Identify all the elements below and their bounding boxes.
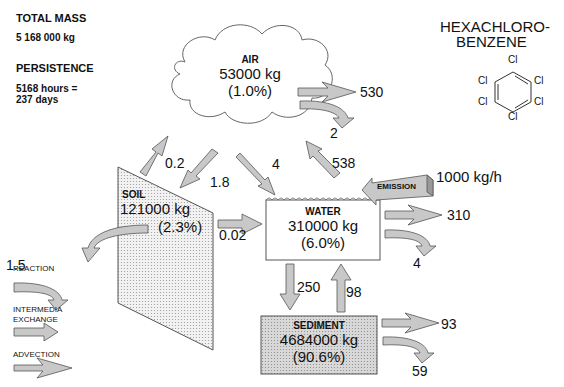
- cl-lower-left: Cl: [478, 96, 487, 107]
- soil-to-air-arrow: [140, 136, 168, 176]
- persistence-line1: 5168 hours =: [16, 83, 77, 94]
- persistence-line2: 237 days: [16, 94, 58, 105]
- sediment-mass: 4684000 kg: [261, 331, 377, 348]
- sediment-label: SEDIMENT: [261, 320, 377, 331]
- flow-air-to-water: 4: [272, 156, 280, 172]
- flow-sediment-advection: 93: [441, 316, 457, 332]
- emission-rate: 1000 kg/h: [436, 168, 502, 185]
- water-percent: (6.0%): [266, 234, 380, 251]
- flow-water-to-sediment: 250: [297, 279, 320, 295]
- legend-advection-label: ADVECTION: [13, 350, 60, 359]
- persistence-label: PERSISTENCE: [16, 62, 94, 74]
- flow-air-advection: 530: [360, 84, 383, 100]
- legend-reaction-label: REACTION: [13, 264, 54, 273]
- flow-sediment-reaction: 59: [412, 363, 428, 379]
- water-reaction-arrow: [385, 230, 436, 256]
- air-reaction-arrow: [300, 101, 354, 128]
- flow-air-reaction: 2: [330, 125, 338, 141]
- water-label: WATER: [266, 206, 380, 217]
- flow-water-advection: 310: [447, 207, 470, 223]
- legend-intermedia-arrow: [14, 323, 58, 341]
- flow-sediment-to-water: 98: [346, 284, 362, 300]
- water-advection-arrow: [385, 205, 442, 225]
- chemical-name-line2: BENZENE: [456, 33, 527, 50]
- cl-bottom: Cl: [508, 111, 517, 122]
- flow-water-reaction: 4: [413, 255, 421, 271]
- sediment-reaction-arrow: [383, 337, 434, 363]
- flow-soil-to-air: 0.2: [165, 155, 184, 171]
- legend-intermedia-line2: EXCHANGE: [13, 315, 58, 324]
- water-mass: 310000 kg: [266, 217, 380, 234]
- air-label: AIR: [185, 54, 315, 65]
- air-percent: (1.0%): [185, 82, 315, 99]
- total-mass-label: TOTAL MASS: [16, 12, 86, 24]
- benzene-ring: [495, 72, 531, 112]
- cl-upper-left: Cl: [478, 75, 487, 86]
- sediment-advection-arrow: [382, 313, 439, 333]
- air-mass: 53000 kg: [185, 65, 315, 82]
- legend-advection-arrow: [14, 358, 72, 378]
- cl-lower-right: Cl: [534, 96, 543, 107]
- legend-intermedia-line1: INTERMEDIA: [13, 305, 62, 314]
- flow-air-to-soil: 1.8: [210, 174, 229, 190]
- soil-mass: 121000 kg: [120, 200, 190, 217]
- cl-top: Cl: [508, 54, 517, 65]
- flow-water-to-air: 538: [332, 155, 355, 171]
- cl-upper-right: Cl: [534, 75, 543, 86]
- soil-label: SOIL: [122, 189, 145, 200]
- soil-percent: (2.3%): [158, 218, 202, 235]
- sediment-percent: (90.6%): [261, 348, 377, 365]
- total-mass-value: 5 168 000 kg: [16, 32, 75, 43]
- air-to-water-arrow: [236, 153, 275, 195]
- flow-soil-to-water: 0.02: [219, 227, 246, 243]
- emission-label: EMISSION: [377, 182, 416, 191]
